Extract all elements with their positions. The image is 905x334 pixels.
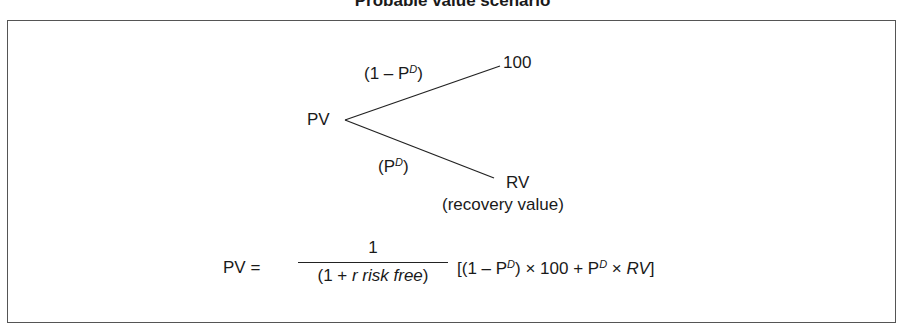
den-text: ) [423,266,429,285]
den-italic: r risk free [352,266,423,285]
fraction-denominator: (1 + r risk free) [317,266,428,285]
lower-outcome: RV [506,173,529,193]
expr-text: [(1 – P [457,259,507,278]
label-text: (1 – P [364,64,409,83]
tree-branches [0,0,905,334]
fraction-numerator: 1 [298,238,448,258]
expr-text: ] [650,259,655,278]
formula-bracket-expression: [(1 – PD) × 100 + PD × RV] [457,258,655,279]
label-text: ) [403,157,409,176]
expr-text: ) × 100 + P [515,259,599,278]
lower-outcome-note: (recovery value) [442,195,564,215]
expr-text: × [607,259,626,278]
den-text: (1 + [317,266,352,285]
label-text: (P [378,157,395,176]
superscript: D [599,258,607,270]
formula-lhs: PV = [223,258,260,278]
lower-branch-line [345,120,494,178]
fraction-bar [298,262,448,263]
expr-italic: RV [627,259,650,278]
label-text: ) [417,64,423,83]
upper-outcome: 100 [503,53,531,73]
formula-fraction: 1 (1 + r risk free) [298,238,448,286]
upper-branch-probability: (1 – PD) [364,63,423,84]
lower-branch-probability: (PD) [378,156,409,177]
tree-root-pv: PV [307,110,330,130]
superscript: D [395,156,403,168]
superscript: D [507,258,515,270]
